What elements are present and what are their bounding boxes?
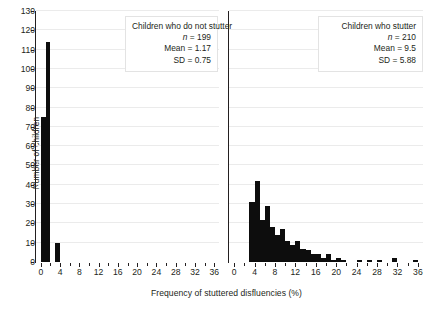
x-tick-mark-26: [367, 263, 368, 266]
y-tick-mark-70: [31, 127, 34, 128]
bar: [55, 243, 60, 262]
x-tick-mark-14: [108, 263, 109, 266]
y-tick-mark-80: [31, 108, 34, 109]
y-tick-mark-60: [31, 146, 34, 147]
histogram-figure: Number of children 010203040506070809010…: [0, 0, 431, 319]
bar: [357, 260, 362, 262]
gridline-90: [36, 87, 219, 88]
gridline-40: [36, 184, 219, 185]
y-tick-mark-30: [31, 204, 34, 205]
gridline-50: [36, 164, 219, 165]
bar: [367, 260, 372, 262]
bar: [392, 258, 397, 262]
y-tick-mark-50: [31, 165, 34, 166]
bar: [377, 260, 382, 262]
x-axis-title: Frequency of stuttered disfluencies (%): [151, 288, 302, 298]
x-tick-mark-10: [89, 263, 90, 266]
left-panel-x-axis: 04812162024283236: [35, 263, 219, 285]
stats-box-children-who-do-not-stutter: Children who do not stutter n = 199 Mean…: [125, 16, 218, 72]
y-tick-mark-120: [31, 30, 34, 31]
gridline-130: [36, 10, 219, 11]
x-tick-mark-30: [387, 263, 388, 266]
y-tick-mark-110: [31, 50, 34, 51]
x-tick-mark-30: [185, 263, 186, 266]
x-axis-title-wrapper: Frequency of stuttered disfluencies (%): [0, 288, 431, 298]
stats-sd-right: SD = 5.88: [325, 55, 416, 66]
x-tick-label-36: 36: [406, 268, 430, 277]
y-tick-mark-90: [31, 88, 34, 89]
x-tick-mark-2: [244, 263, 245, 266]
y-tick-mark-20: [31, 223, 34, 224]
right-panel-x-axis: 04812162024283236: [228, 263, 423, 285]
gridline-70: [229, 126, 423, 127]
x-tick-mark-2: [50, 263, 51, 266]
bar: [413, 260, 418, 262]
gridline-10: [36, 242, 219, 243]
gridline-20: [36, 222, 219, 223]
y-tick-mark-0: [31, 262, 34, 263]
y-tick-mark-40: [31, 185, 34, 186]
stats-n-right: n = 210: [325, 32, 416, 43]
stats-box-children-who-stutter: Children who stutter n = 210 Mean = 9.5 …: [318, 16, 423, 72]
gridline-60: [229, 145, 423, 146]
stats-mean-right: Mean = 9.5: [325, 43, 416, 54]
gridline-130: [229, 10, 423, 11]
x-tick-mark-22: [346, 263, 347, 266]
x-tick-mark-6: [265, 263, 266, 266]
x-tick-mark-10: [285, 263, 286, 266]
gridline-90: [229, 87, 423, 88]
gridline-80: [229, 107, 423, 108]
x-tick-mark-18: [326, 263, 327, 266]
bar: [341, 260, 346, 262]
gridline-30: [36, 203, 219, 204]
gridline-70: [36, 126, 219, 127]
y-tick-mark-130: [31, 11, 34, 12]
stats-mean-left: Mean = 1.17: [132, 43, 211, 54]
stats-n-value-right: = 210: [392, 32, 416, 42]
y-tick-mark-100: [31, 69, 34, 70]
bar: [46, 42, 51, 262]
stats-n-left: n = 199: [132, 32, 211, 43]
stats-title-right: Children who stutter: [325, 21, 416, 32]
gridline-60: [36, 145, 219, 146]
x-tick-mark-6: [70, 263, 71, 266]
x-tick-mark-18: [128, 263, 129, 266]
x-tick-mark-34: [205, 263, 206, 266]
stats-sd-left: SD = 0.75: [132, 55, 211, 66]
x-tick-mark-26: [166, 263, 167, 266]
x-tick-mark-22: [147, 263, 148, 266]
gridline-50: [229, 164, 423, 165]
stats-n-value-left: = 199: [187, 32, 211, 42]
x-tick-mark-14: [306, 263, 307, 266]
x-tick-mark-34: [408, 263, 409, 266]
stats-title-left: Children who do not stutter: [132, 21, 211, 32]
gridline-80: [36, 107, 219, 108]
y-tick-mark-10: [31, 243, 34, 244]
